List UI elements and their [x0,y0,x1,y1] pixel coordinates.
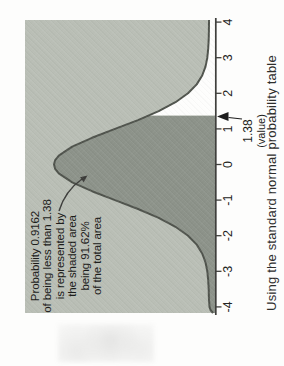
x-tick-label-0: 0 [221,153,235,177]
x-tick-label-neg4: -4 [221,295,235,319]
marker-value-text: 1.38 [242,102,255,160]
probability-annotation: Probability 0.9162 of being less than 1.… [29,184,103,328]
annotation-line: Probability 0.9162 [29,184,41,328]
figure-caption: Using the standard normal probability ta… [264,0,279,366]
x-tick-label-neg1: -1 [221,188,235,212]
annotation-line: of the total area [91,184,103,328]
x-tick-label-4: 4 [221,10,235,34]
scanned-figure-page: Probability 0.9162 of being less than 1.… [0,0,284,366]
rotated-chart-canvas: Probability 0.9162 of being less than 1.… [0,0,284,366]
x-tick-label-2: 2 [221,81,235,105]
x-tick-label-neg3: -3 [221,259,235,283]
annotation-line: is represented by [54,184,66,328]
annotation-line: being 91.62% [79,184,91,328]
x-tick-label-neg2: -2 [221,224,235,248]
annotation-line: the shaded area [66,184,78,328]
x-tick-label-3: 3 [221,46,235,70]
x-tick-label-1: 1 [221,117,235,141]
annotation-line: of being less than 1.38 [41,184,53,328]
